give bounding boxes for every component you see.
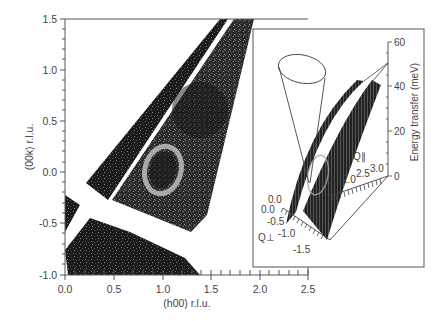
q-parallel-label: Q∥ bbox=[353, 151, 366, 163]
y-tick-1.0: 1.0 bbox=[42, 64, 57, 76]
y-tick-minus-0.5: -0.5 bbox=[39, 217, 57, 229]
x-tick-0.5: 0.5 bbox=[107, 283, 122, 295]
inset-3d-plot: 60 40 20 0 Energy transfer (meV) Q∥ 2.0 … bbox=[253, 29, 424, 267]
y-tick-minus-1.0: -1.0 bbox=[39, 269, 57, 281]
energy-tick-40: 40 bbox=[394, 81, 406, 92]
y-axis-label: (00k) r.l.u. bbox=[23, 124, 35, 171]
x-axis-label: (h00) r.l.u. bbox=[163, 297, 210, 309]
x-tick-0.0: 0.0 bbox=[58, 283, 73, 295]
x-tick-2.0: 2.0 bbox=[253, 283, 268, 295]
figure-canvas: 1.5 1.0 0.5 0.0 -0.5 -1.0 0.0 0.5 1.0 1.… bbox=[0, 0, 447, 321]
y-tick-0.5: 0.5 bbox=[42, 115, 57, 127]
energy-axis-label: Energy transfer (meV) bbox=[409, 63, 420, 161]
energy-tick-0: 0 bbox=[394, 171, 400, 182]
y-tick-0.0: 0.0 bbox=[42, 166, 57, 178]
x-tick-1.0: 1.0 bbox=[156, 283, 171, 295]
main-heatmap bbox=[65, 19, 254, 275]
q-perp-tick-0.0: 0.0 bbox=[261, 204, 275, 215]
q-perp-label: Q⊥ bbox=[258, 232, 275, 243]
q-perp-tick-minus-1.5: -1.5 bbox=[293, 244, 311, 255]
q-parallel-tick-2.0: 2.0 bbox=[342, 174, 356, 185]
q-parallel-tick-2.5: 2.5 bbox=[356, 168, 370, 179]
energy-tick-20: 20 bbox=[394, 126, 406, 137]
q-perp-tick-minus-0.5: -0.5 bbox=[267, 216, 285, 227]
detector-wedge-3 bbox=[65, 195, 80, 232]
q-perp-tick-minus-1.0: -1.0 bbox=[278, 228, 296, 239]
y-axis-ticks bbox=[60, 19, 65, 275]
x-tick-2.5: 2.5 bbox=[301, 283, 316, 295]
q-parallel-tick-3.0: 3.0 bbox=[370, 163, 384, 174]
y-tick-1.5: 1.5 bbox=[42, 13, 57, 25]
energy-tick-60: 60 bbox=[394, 37, 406, 48]
x-tick-1.5: 1.5 bbox=[204, 283, 219, 295]
